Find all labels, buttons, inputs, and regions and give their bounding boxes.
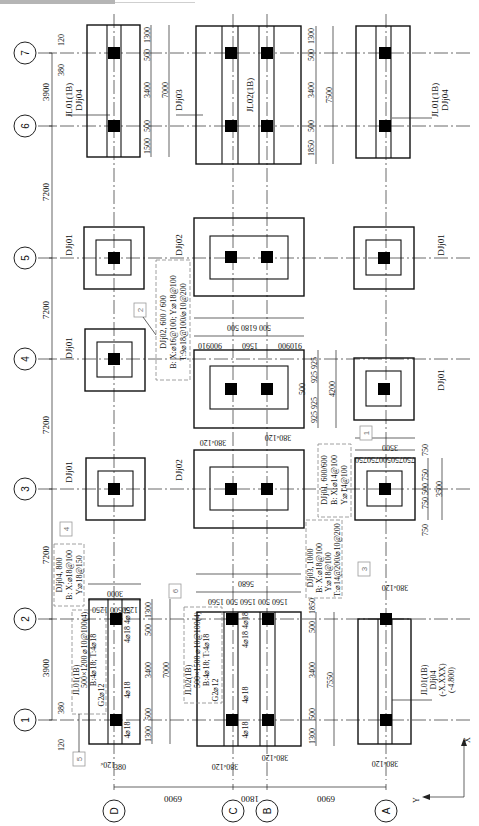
axis-bubble-4: 4 <box>14 348 36 370</box>
callout-1: 1 DJj01, 600/600 B: X:⌀14@100 Y:⌀14@100 <box>318 426 372 517</box>
svg-text:500: 500 <box>144 624 153 636</box>
svg-text:T:9⌀18@100/⌀10@200: T:9⌀18@100/⌀10@200 <box>179 283 188 361</box>
svg-text:B: X:⌀18@100: B: X:⌀18@100 <box>65 550 74 600</box>
svg-text:DJj01: DJj01 <box>64 337 74 359</box>
column-spacing-dimension: 6900 1800 6900 <box>114 784 386 804</box>
svg-text:D: D <box>109 807 120 814</box>
svg-text:DJj02: DJj02 <box>174 459 184 481</box>
svg-text:1560: 1560 <box>242 341 258 350</box>
svg-text:500: 500 <box>298 383 307 395</box>
svg-text:500×1500 ⌀10@100(4): 500×1500 ⌀10@100(4) <box>193 612 202 689</box>
svg-text:4⌀18: 4⌀18 <box>241 722 250 739</box>
svg-text:Y:⌀18@100: Y:⌀18@100 <box>324 552 333 592</box>
axis-bubble-3: 3 <box>14 478 36 500</box>
svg-text:3400: 3400 <box>307 82 316 98</box>
svg-text:750: 750 <box>421 524 430 536</box>
svg-text:380⸗120: 380⸗120 <box>212 762 239 771</box>
axis-bubble-5: 5 <box>14 247 36 269</box>
svg-text:1300: 1300 <box>307 28 316 44</box>
row-spacing-label: 3900 <box>41 659 51 678</box>
svg-text:4200: 4200 <box>328 381 337 397</box>
svg-text:900910: 900910 <box>198 341 222 350</box>
footing-djj02-cb-4 <box>194 350 304 428</box>
svg-text:380⸗120: 380⸗120 <box>200 438 227 447</box>
callout-4: 4 DJj04, 800 B: X:⌀18@100 Y:⌀18@150 <box>54 522 84 606</box>
svg-text:6: 6 <box>20 123 31 129</box>
svg-text:4: 4 <box>62 526 71 531</box>
svg-text:380: 380 <box>114 763 126 772</box>
svg-text:4: 4 <box>20 356 31 362</box>
svg-text:DJj01: DJj01 <box>64 461 74 483</box>
svg-text:T:⌀14@200/⌀10@200: T:⌀14@200/⌀10@200 <box>333 523 342 597</box>
svg-text:G2⌀12: G2⌀12 <box>211 679 220 702</box>
footing-djj04-d-top <box>87 25 140 157</box>
djj03-cross-dimension: 5680 1560 500 1560 500 1560 <box>196 574 301 606</box>
svg-text:3000: 3000 <box>107 589 123 598</box>
row-axis-lines <box>38 53 470 720</box>
svg-text:500: 500 <box>308 621 317 633</box>
svg-text:7000: 7000 <box>162 662 171 678</box>
svg-text:380⸗120: 380⸗120 <box>262 753 289 762</box>
callout-6-tag: 6 <box>169 584 181 598</box>
svg-text:1300: 1300 <box>144 726 153 742</box>
column-spacing-label: 1800 <box>241 794 260 804</box>
svg-text:500: 500 <box>307 49 316 61</box>
cb-top-dimension: 1300 500 3400 500 1850 7500 JL02(1B) JL0… <box>245 26 450 164</box>
svg-text:380: 380 <box>57 64 66 76</box>
svg-text:6: 6 <box>171 588 180 593</box>
svg-text:910900: 910900 <box>278 341 302 350</box>
svg-text:B:4⌀18; T:4⌀18: B:4⌀18; T:4⌀18 <box>89 634 98 686</box>
svg-text:DJj04: DJj04 <box>429 670 438 689</box>
svg-text:4⌀18 4⌀18: 4⌀18 4⌀18 <box>123 607 132 643</box>
callout-6: JL02(1B) 500×1500 ⌀10@100(4) B:4⌀18; T:4… <box>184 607 222 703</box>
coordinate-axes-icon: X Y <box>412 737 472 803</box>
row-spacing-label: 7200 <box>41 416 51 435</box>
svg-text:380: 380 <box>57 702 66 714</box>
svg-text:7: 7 <box>20 50 31 56</box>
svg-text:B: X:⌀16@100; Y:⌀18@100: B: X:⌀16@100; Y:⌀18@100 <box>169 275 178 368</box>
axis-bubble-7: 7 <box>14 42 36 64</box>
svg-text:7550: 7550 <box>326 672 335 688</box>
svg-text:750 500 750: 750 500 750 <box>421 469 430 509</box>
svg-text:1560 500 1560 500 1560: 1560 500 1560 500 1560 <box>208 597 288 606</box>
djj01-dimensions: 3500 750750500750750 750 500 750 3500 75… <box>355 438 444 536</box>
axis-bubble-2: 2 <box>14 608 36 630</box>
svg-text:(-4.800): (-4.800) <box>447 667 456 693</box>
svg-text:3400: 3400 <box>143 82 152 98</box>
svg-text:500: 500 <box>143 120 152 132</box>
svg-text:1: 1 <box>20 717 31 723</box>
svg-text:JL01(1B): JL01(1B) <box>420 664 429 695</box>
svg-text:DJj04, 800: DJj04, 800 <box>55 557 64 592</box>
row-spacing-label: 7200 <box>41 183 51 202</box>
svg-text:B: B <box>262 807 273 814</box>
svg-text:Y:⌀18@150: Y:⌀18@150 <box>75 555 84 595</box>
footing-djj01-a-4: DJj01 <box>354 358 446 420</box>
svg-text:X: X <box>463 737 472 743</box>
label-jl01-a: JL01(1B) <box>430 83 440 118</box>
svg-text:2: 2 <box>136 307 145 312</box>
cb-col-offsets-upper: 380⸗120 380⸗120 <box>200 433 292 447</box>
footing-djj02-cb-5: DJj02 <box>174 218 304 296</box>
svg-text:500×1200 ⌀10@100(4): 500×1200 ⌀10@100(4) <box>80 612 89 689</box>
svg-text:7000: 7000 <box>161 82 170 98</box>
top-left-annotations: 120 380 JL01(1B) DJj04 <box>57 34 110 117</box>
column-spacing-label: 6900 <box>164 794 183 804</box>
callout-3: 3 DJj03, 1000 B: X:⌀18@100 Y:⌀18@100 T:⌀… <box>306 520 370 598</box>
axis-bubble-B: B <box>256 800 278 822</box>
d-bottom-dimension: 1300 500 3400 500 1300 7000 <box>144 599 171 744</box>
axis-bubble-6: 6 <box>14 115 36 137</box>
svg-text:380⸗120: 380⸗120 <box>265 433 292 442</box>
svg-text:4⌀18: 4⌀18 <box>241 687 250 704</box>
svg-text:750: 750 <box>421 444 430 456</box>
column-axis-lines <box>114 14 386 780</box>
row-spacing-dimension: 3900 7200 7200 7200 7200 3900 <box>41 53 55 720</box>
axis-bubble-C: C <box>222 800 244 822</box>
svg-text:Y:⌀14@100: Y:⌀14@100 <box>340 465 349 505</box>
svg-text:7500: 7500 <box>325 87 334 103</box>
svg-text:Y: Y <box>412 797 421 803</box>
svg-text:1300: 1300 <box>143 27 152 43</box>
svg-text:500: 500 <box>308 708 317 720</box>
label-djj03: DJj03 <box>174 89 184 111</box>
column-spacing-label: 6900 <box>317 794 336 804</box>
svg-text:750750500750750: 750750500750750 <box>355 455 415 464</box>
